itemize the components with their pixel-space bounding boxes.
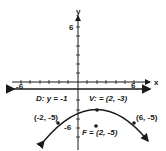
x-axis-label: x bbox=[154, 78, 159, 87]
parabola-graph: y x 6 -6 6 -6 D: y = -1 V: = (2, -3) (-2… bbox=[0, 0, 166, 151]
y-axis bbox=[76, 16, 80, 150]
x-axis bbox=[12, 80, 150, 84]
y-tick-bottom-label: -6 bbox=[64, 123, 72, 132]
x-tick-right-label: 6 bbox=[131, 81, 136, 90]
point-right-label: (6, -5) bbox=[136, 113, 158, 122]
directrix-label: D: y = -1 bbox=[36, 94, 68, 103]
x-tick-left-label: -6 bbox=[16, 82, 24, 91]
y-axis-label: y bbox=[76, 7, 81, 16]
vertex-label: V: = (2, -3) bbox=[89, 94, 127, 103]
point-left-label: (-2, -5) bbox=[34, 113, 58, 122]
focus-label: F = (2, -5) bbox=[82, 128, 118, 137]
vertex-point bbox=[95, 108, 99, 112]
y-tick-top-label: 6 bbox=[69, 23, 74, 32]
